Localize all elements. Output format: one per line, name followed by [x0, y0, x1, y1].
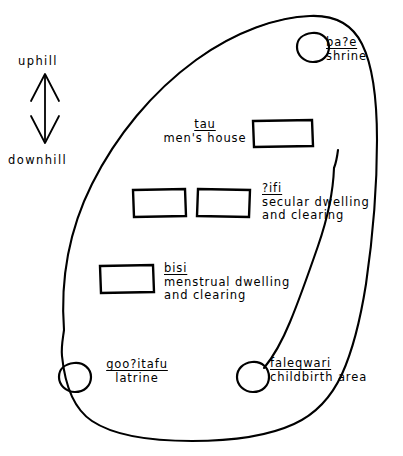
feature-gloss-tau: men's house: [160, 132, 250, 146]
feature-gloss-bisi-line2: and clearing: [164, 289, 290, 303]
feature-gloss-faleqwari: childbirth area: [270, 371, 367, 385]
feature-term-bisi: bisi: [164, 262, 290, 276]
feature-gloss-gooitafu: latrine: [96, 372, 178, 386]
feature-term-bae: ba?e: [326, 36, 367, 50]
feature-label-faleqwari: faleqwari childbirth area: [270, 357, 367, 384]
feature-label-tau: tau men's house: [160, 118, 250, 145]
feature-term-tau: tau: [160, 118, 250, 132]
menstrual-dwelling-rectangle-marker: [100, 265, 154, 293]
feature-label-bae: ba?e shrine: [326, 36, 367, 63]
legend-uphill-label: uphill: [18, 51, 58, 70]
uphill-downhill-arrow: [31, 74, 59, 143]
feature-term-ifi: ?ifi: [262, 182, 370, 196]
village-plan-diagram: uphill downhill ba?e shrine tau men's ho…: [0, 0, 403, 456]
legend-downhill-label: downhill: [8, 150, 67, 169]
feature-label-bisi: bisi menstrual dwelling and clearing: [164, 262, 290, 303]
secular-dwelling-rectangle-marker-2: [197, 189, 250, 217]
feature-gloss-bae: shrine: [326, 50, 367, 64]
feature-gloss-bisi-line1: menstrual dwelling: [164, 276, 290, 290]
feature-term-gooitafu: goo?itafu: [96, 358, 178, 372]
feature-label-gooitafu: goo?itafu latrine: [96, 358, 178, 385]
legend-downhill-text: downhill: [8, 153, 67, 167]
feature-gloss-ifi-line2: and clearing: [262, 209, 370, 223]
shrine-circle-marker: [297, 33, 329, 62]
diagram-sketch-layer: [0, 0, 403, 456]
secular-dwelling-rectangle-marker-1: [133, 189, 186, 217]
childbirth-area-circle-marker: [237, 362, 269, 392]
feature-term-faleqwari: faleqwari: [270, 357, 367, 371]
feature-gloss-ifi-line1: secular dwelling: [262, 196, 370, 210]
inner-boundary-upper-tick: [334, 150, 338, 168]
latrine-circle-marker: [59, 363, 91, 392]
mens-house-rectangle-marker: [253, 120, 313, 147]
feature-label-ifi: ?ifi secular dwelling and clearing: [262, 182, 370, 223]
legend-uphill-text: uphill: [18, 54, 58, 68]
